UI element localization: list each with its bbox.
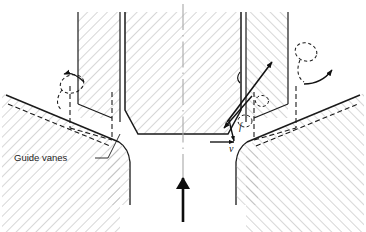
guide-vanes-label: Guide vanes [14, 152, 68, 163]
figure-container: Guide vanes v f [0, 0, 366, 232]
left-vane-column [70, 0, 130, 130]
cross-section-diagram: Guide vanes v f [0, 0, 366, 232]
right-vane-column [238, 0, 296, 130]
right-vortex-swirl [293, 40, 319, 82]
right-rotation-arrow [304, 70, 332, 84]
velocity-label: v [229, 143, 234, 154]
